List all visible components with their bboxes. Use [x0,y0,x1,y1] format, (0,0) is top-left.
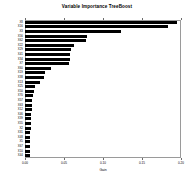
bar [25,35,87,38]
bar [25,140,30,143]
bar-row [25,25,168,28]
bar-row [25,44,74,47]
bar [25,117,31,120]
y-axis-tick-label: X7 [19,62,22,65]
bar [25,85,35,88]
bar [25,131,30,134]
bar-row [25,140,30,143]
x-tick-mark-top [142,18,143,20]
bar-row [25,150,30,153]
bar-row [25,39,86,42]
bar-row [25,104,32,107]
chart-title: Variable Importance TreeBoost [0,4,194,10]
y-axis-tick-label: X29 [18,48,23,51]
bar-row [25,154,30,157]
bar [25,62,69,65]
y-axis-tick-label: X25 [18,85,23,88]
bar [25,21,177,24]
bar-row [25,94,33,97]
bars-layer [25,20,181,158]
y-axis-tick-label: X5 [19,140,22,143]
bar [25,145,30,148]
bar [25,76,44,79]
y-axis-tick-label: X62 [18,39,23,42]
bar [25,150,30,153]
bar [25,30,121,33]
bar [25,25,168,28]
bar [25,108,32,111]
x-axis-tick-label: 0.00 [22,161,28,165]
y-axis-tick-label: X44 [18,154,23,157]
y-axis-labels: X8X16X3X56X62X22X29X41X34X7X60X19X38X13X… [0,20,24,158]
bar-row [25,117,31,120]
bar-row [25,113,31,116]
x-axis-tick-label: 0.10 [100,161,106,165]
y-axis-tick-label: X3 [19,30,22,33]
y-axis-tick-label: X55 [18,122,23,125]
bar [25,99,32,102]
bar [25,39,86,42]
bar-row [25,21,177,24]
bar [25,90,34,93]
x-axis-title: Gain [25,168,181,172]
bar-row [25,122,31,125]
y-axis-tick-label: X38 [18,76,23,79]
bar-row [25,35,87,38]
bar-row [25,136,30,139]
bar [25,122,31,125]
bar [25,94,33,97]
y-axis-tick-label: X12 [18,108,23,111]
bar [25,44,74,47]
bar-row [25,131,30,134]
bar-row [25,85,35,88]
y-axis-tick-label: X31 [18,131,23,134]
bar-row [25,58,70,61]
bar [25,104,32,107]
bar-row [25,90,34,93]
x-tick-mark-top [64,18,65,20]
bar [25,53,70,56]
x-axis-tick-label: 0.20 [178,161,184,165]
x-axis-tick-label: 0.15 [139,161,145,165]
bar-row [25,108,32,111]
bar [25,136,30,139]
y-axis-tick-label: X41 [18,53,23,56]
x-tick-mark-top [25,18,26,20]
y-axis-tick-label: X16 [18,25,23,28]
bar-row [25,81,40,84]
bar-row [25,127,31,130]
bar-row [25,99,32,102]
y-axis-tick-label: X57 [18,99,23,102]
bar [25,71,45,74]
bar [25,48,71,51]
bar-row [25,67,51,70]
bar [25,154,30,157]
x-tick-mark-top [103,18,104,20]
bar-row [25,53,70,56]
bar-row [25,30,121,33]
x-tick-mark-top [181,18,182,20]
bar-row [25,145,30,148]
bar-row [25,71,45,74]
y-axis-tick-label: X39 [18,117,23,120]
y-axis-tick-label: X70 [18,94,23,97]
bar [25,127,31,130]
bar-row [25,48,71,51]
bar-row [25,62,69,65]
bar [25,81,40,84]
bar [25,113,31,116]
bar [25,67,51,70]
chart-figure: Variable Importance TreeBoost X8X16X3X56… [0,0,194,179]
bar [25,58,70,61]
y-axis-tick-label: X19 [18,71,23,74]
bar-row [25,76,44,79]
x-axis-tick-label: 0.05 [61,161,67,165]
y-axis-tick-label: X67 [18,145,23,148]
